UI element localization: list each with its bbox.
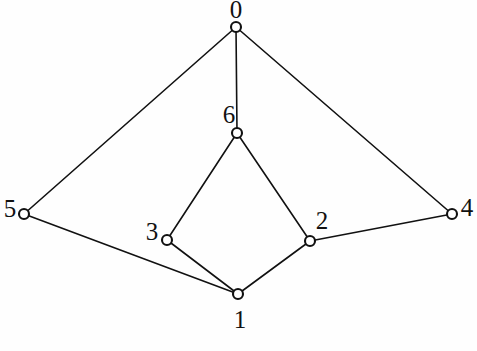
graph-node-0[interactable]: 0 bbox=[230, 0, 243, 32]
graph-node-label-5: 5 bbox=[4, 195, 17, 222]
graph-edge-6-2 bbox=[237, 133, 310, 241]
graph-node-5[interactable]: 5 bbox=[4, 195, 29, 222]
graph-edge-3-1 bbox=[167, 240, 238, 294]
graph-node-circle-2[interactable] bbox=[305, 236, 315, 246]
node-layer: 0123456 bbox=[4, 0, 474, 333]
graph-edge-0-6 bbox=[236, 27, 237, 133]
graph-node-3[interactable]: 3 bbox=[146, 218, 172, 245]
graph-node-circle-1[interactable] bbox=[233, 289, 243, 299]
graph-node-label-2: 2 bbox=[316, 207, 329, 234]
graph-edge-6-3 bbox=[167, 133, 237, 240]
graph-edge-2-1 bbox=[238, 241, 310, 294]
graph-edge-0-5 bbox=[24, 27, 236, 214]
graph-edge-2-4 bbox=[310, 214, 452, 241]
graph-node-circle-4[interactable] bbox=[447, 209, 457, 219]
graph-node-label-3: 3 bbox=[146, 218, 159, 245]
graph-node-label-6: 6 bbox=[223, 101, 236, 128]
graph-node-1[interactable]: 1 bbox=[233, 289, 246, 333]
graph-node-label-4: 4 bbox=[461, 194, 474, 221]
graph-node-4[interactable]: 4 bbox=[447, 194, 474, 221]
graph-figure: 0123456 bbox=[0, 0, 477, 351]
edge-layer bbox=[24, 27, 452, 294]
graph-edge-0-4 bbox=[236, 27, 452, 214]
graph-node-circle-6[interactable] bbox=[232, 128, 242, 138]
graph-node-label-0: 0 bbox=[230, 0, 243, 23]
graph-node-circle-3[interactable] bbox=[162, 235, 172, 245]
graph-node-6[interactable]: 6 bbox=[223, 101, 242, 138]
graph-node-circle-0[interactable] bbox=[231, 22, 241, 32]
graph-edge-5-1 bbox=[24, 214, 238, 294]
graph-canvas: 0123456 bbox=[0, 0, 477, 351]
graph-node-circle-5[interactable] bbox=[19, 209, 29, 219]
graph-node-label-1: 1 bbox=[234, 306, 247, 333]
